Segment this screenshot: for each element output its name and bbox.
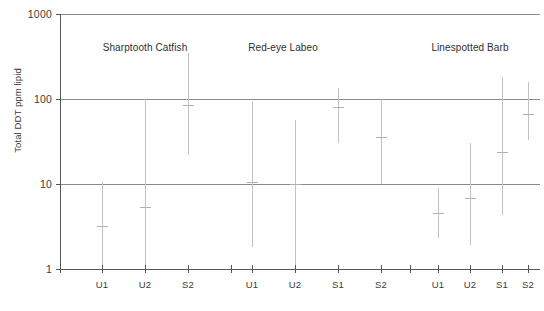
y-axis-title: Total DDT ppm lipid bbox=[12, 56, 23, 166]
mean-marker bbox=[183, 105, 194, 106]
mean-marker bbox=[247, 182, 258, 183]
x-axis-line bbox=[60, 269, 540, 270]
x-tick-label: S1 bbox=[323, 279, 353, 290]
mean-marker bbox=[523, 114, 534, 115]
error-bar bbox=[188, 53, 189, 155]
x-tick-label: U1 bbox=[237, 279, 267, 290]
error-bar bbox=[145, 99, 146, 265]
mean-marker bbox=[497, 152, 508, 153]
error-bar bbox=[528, 82, 529, 140]
error-bar bbox=[470, 143, 471, 245]
x-tick-label: S2 bbox=[366, 279, 396, 290]
mean-marker bbox=[333, 107, 344, 108]
y-axis-line bbox=[60, 14, 61, 270]
group-label: Linespotted Barb bbox=[370, 42, 544, 53]
mean-marker bbox=[140, 207, 151, 208]
group-label: Red-eye Labeo bbox=[183, 42, 383, 53]
error-bar bbox=[338, 88, 339, 144]
mean-marker bbox=[290, 184, 301, 185]
y-tick-label: 100 bbox=[12, 93, 52, 105]
x-tick-label: U2 bbox=[455, 279, 485, 290]
y-tick-label: 1 bbox=[12, 263, 52, 275]
x-tick-label: S2 bbox=[513, 279, 543, 290]
error-bar bbox=[502, 77, 503, 215]
gridline bbox=[60, 14, 540, 15]
x-tick-label: U1 bbox=[423, 279, 453, 290]
chart-canvas: Total DDT ppm lipid 1000100101 Sharptoot… bbox=[0, 0, 544, 311]
gridline bbox=[60, 99, 540, 100]
mean-marker bbox=[376, 137, 387, 138]
mean-marker bbox=[433, 213, 444, 214]
mean-marker bbox=[465, 198, 476, 199]
mean-marker bbox=[97, 226, 108, 227]
y-tick-label: 10 bbox=[12, 178, 52, 190]
x-tick-label: U1 bbox=[87, 279, 117, 290]
error-bar bbox=[252, 101, 253, 247]
y-tick-label: 1000 bbox=[12, 8, 52, 20]
x-tick-label: S2 bbox=[173, 279, 203, 290]
x-tick-label: U2 bbox=[130, 279, 160, 290]
error-bar bbox=[295, 120, 296, 267]
error-bar bbox=[381, 99, 382, 184]
x-tick-label: U2 bbox=[280, 279, 310, 290]
